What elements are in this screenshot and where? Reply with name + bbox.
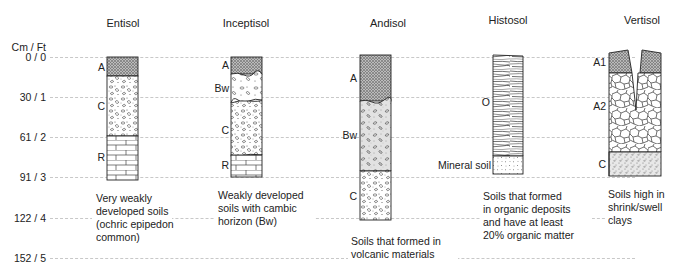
- inceptisol-profile: [231, 57, 262, 177]
- horizon-label-inceptisol-r: R: [215, 159, 229, 171]
- horizon-label-entisol-c: C: [95, 100, 105, 112]
- description-inceptisol: Weakly developed soils with cambic horiz…: [218, 189, 304, 228]
- horizon-label-inceptisol-a: A: [215, 59, 229, 71]
- horizon-label-inceptisol-c: C: [215, 124, 229, 136]
- horizon-label-andisol-a: A: [343, 72, 357, 84]
- histosol-profile: [493, 55, 523, 174]
- horizon-label-vertisol-c: C: [588, 158, 606, 170]
- horizon-label-andisol-bw: Bw: [338, 129, 357, 141]
- horizon-label-inceptisol-bw: Bw: [210, 82, 229, 94]
- horizon-label-entisol-a: A: [95, 61, 105, 73]
- horizon-label-vertisol-a2: A2: [588, 100, 606, 112]
- horizon-label-entisol-r: R: [95, 151, 105, 163]
- vertisol-profile: [609, 50, 661, 176]
- description-histosol: Soils that formed in organic deposits an…: [483, 190, 574, 242]
- andisol-profile: [360, 55, 391, 220]
- description-entisol: Very weakly developed soils (ochric epip…: [96, 192, 174, 244]
- horizon-label-andisol-c: C: [343, 190, 357, 202]
- horizon-label-histosol-mineral: Mineral soil: [420, 159, 491, 171]
- horizon-label-vertisol-a1: A1: [588, 56, 606, 68]
- entisol-profile: [107, 57, 138, 180]
- horizon-label-histosol-o: O: [478, 96, 490, 108]
- description-andisol: Soils that formed in volcanic materials: [351, 235, 441, 261]
- description-vertisol: Soils high in shrink/swell clays: [608, 188, 665, 227]
